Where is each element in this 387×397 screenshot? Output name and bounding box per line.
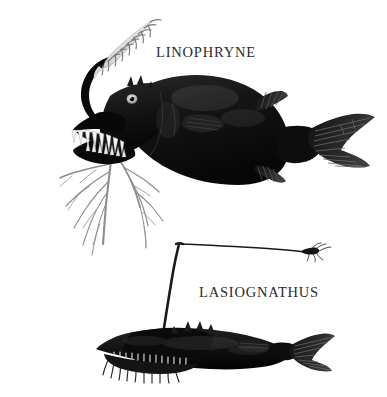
species-label-linophryne: LINOPHRYNE xyxy=(156,44,256,61)
eye-linophryne xyxy=(127,94,138,104)
illustration-plate: LINOPHRYNE LASIOGNATHUS xyxy=(0,0,387,397)
rod-elbow xyxy=(176,243,183,244)
species-label-lasiognathus: LASIOGNATHUS xyxy=(199,284,319,301)
